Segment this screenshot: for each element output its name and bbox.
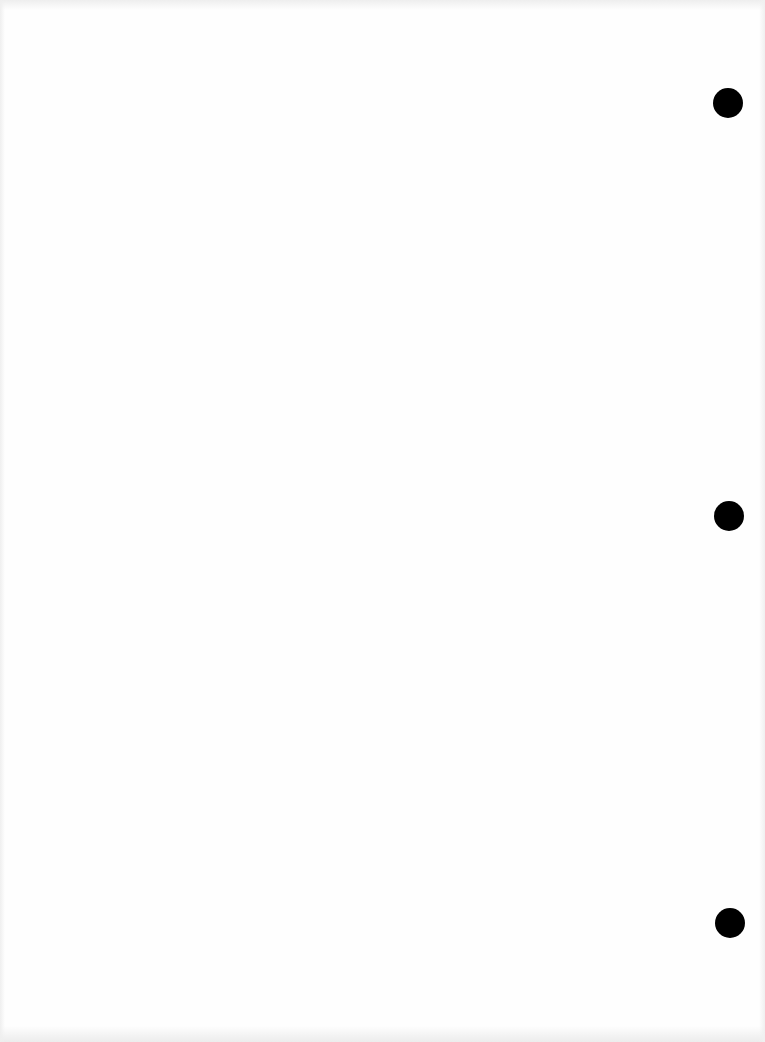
blank-page (0, 0, 765, 1042)
scan-edge-bottom (0, 1026, 765, 1042)
punch-hole-bottom-icon (715, 908, 745, 938)
scan-edge-left (0, 0, 5, 1042)
scan-edge-top (0, 0, 765, 10)
punch-hole-top-icon (713, 88, 743, 118)
punch-hole-middle-icon (714, 501, 744, 531)
scan-edge-right (759, 0, 765, 1042)
